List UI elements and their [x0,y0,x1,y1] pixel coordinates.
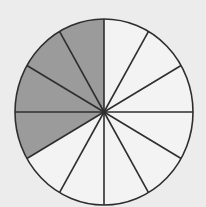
fraction-circle-diagram [0,0,206,207]
fraction-circle [0,0,206,207]
center-point [102,110,106,114]
